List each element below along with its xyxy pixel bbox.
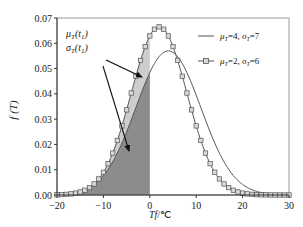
square-marker (92, 182, 96, 186)
square-marker (222, 182, 226, 186)
y-tick-label: 0.06 (35, 38, 53, 49)
square-marker (231, 188, 235, 192)
square-marker (87, 185, 91, 189)
square-marker (106, 161, 110, 165)
x-tick-label: 10 (191, 200, 201, 211)
legend-square-marker-icon (204, 59, 209, 64)
square-marker (152, 27, 156, 31)
square-marker (226, 185, 230, 189)
square-marker (185, 91, 189, 95)
square-marker (138, 58, 142, 62)
square-marker (143, 44, 147, 48)
y-tick-label: 0.04 (35, 88, 53, 99)
square-marker (148, 34, 152, 38)
square-marker (213, 170, 217, 174)
square-marker (250, 192, 254, 196)
y-tick-label: 0.01 (35, 164, 53, 175)
square-marker (78, 190, 82, 194)
x-tick-label: 20 (238, 200, 248, 211)
square-marker (157, 25, 161, 29)
square-marker (189, 108, 193, 112)
y-tick-label: 0.00 (35, 190, 53, 201)
square-marker (166, 34, 170, 38)
x-axis-ticks: −20−100102030 (49, 195, 294, 211)
square-marker (101, 170, 105, 174)
y-tick-label: 0.02 (35, 139, 53, 150)
square-marker (208, 161, 212, 165)
square-marker (203, 151, 207, 155)
y-axis-label: f (T) (7, 100, 20, 120)
square-marker (129, 91, 133, 95)
x-tick-label: 30 (284, 200, 294, 211)
square-marker (217, 177, 221, 181)
y-tick-label: 0.07 (35, 13, 53, 24)
square-marker (97, 177, 101, 181)
square-marker (171, 44, 175, 48)
square-marker (194, 124, 198, 128)
square-marker (180, 74, 184, 78)
y-axis-ticks: 0.000.010.020.030.040.050.060.07 (35, 13, 58, 201)
x-tick-label: −20 (49, 200, 65, 211)
square-marker (64, 192, 68, 196)
square-marker (83, 188, 87, 192)
square-marker (175, 58, 179, 62)
square-marker (110, 151, 114, 155)
x-tick-label: −10 (96, 200, 112, 211)
square-marker (199, 138, 203, 142)
chart: 0.000.010.020.030.040.050.060.07 −20−100… (0, 0, 303, 227)
square-marker (124, 108, 128, 112)
x-axis-label: Tf/℃ (149, 209, 171, 220)
y-tick-label: 0.03 (35, 114, 53, 125)
y-tick-label: 0.05 (35, 63, 53, 74)
square-marker (115, 138, 119, 142)
square-marker (162, 27, 166, 31)
square-marker (236, 190, 240, 194)
